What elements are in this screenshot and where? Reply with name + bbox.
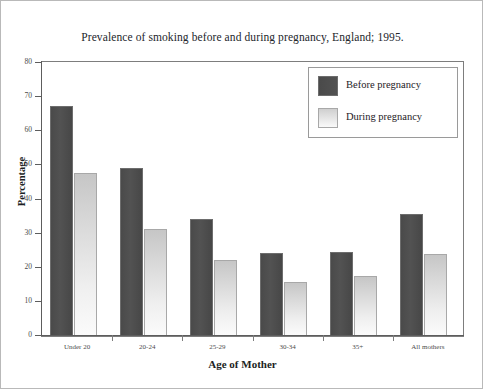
chart-title: Prevalence of smoking before and during … — [1, 31, 483, 43]
legend-label-before: Before pregnancy — [346, 79, 421, 90]
x-axis-tick-label: 30-34 — [253, 343, 323, 351]
bar-before-0 — [50, 106, 73, 335]
x-axis-tick — [253, 335, 254, 341]
y-axis-tick — [35, 301, 42, 302]
y-axis-tick — [35, 335, 42, 336]
bar-before-3 — [260, 253, 283, 335]
x-axis-tick-label: 35+ — [323, 343, 393, 351]
bar-during-2 — [214, 260, 237, 335]
y-axis-tick — [35, 267, 42, 268]
legend-swatch-during-icon — [318, 108, 338, 128]
bar-before-2 — [190, 219, 213, 335]
y-axis-tick — [35, 199, 42, 200]
x-axis-title: Age of Mother — [1, 358, 483, 370]
legend-label-during: During pregnancy — [346, 111, 422, 122]
y-axis-tick-label: 20 — [6, 262, 32, 271]
x-axis-tick — [323, 335, 324, 341]
y-axis-tick-label: 60 — [6, 125, 32, 134]
x-axis-tick — [182, 335, 183, 341]
y-axis-tick — [35, 96, 42, 97]
y-axis-tick — [35, 62, 42, 63]
bar-before-4 — [330, 252, 353, 335]
x-axis-tick — [112, 335, 113, 341]
y-axis-tick — [35, 130, 42, 131]
bar-before-5 — [400, 214, 423, 335]
y-axis-tick — [35, 164, 42, 165]
chart-legend: Before pregnancy During pregnancy — [308, 67, 458, 138]
bar-during-0 — [74, 173, 97, 335]
chart-figure: Prevalence of smoking before and during … — [0, 0, 483, 389]
bar-during-4 — [354, 276, 377, 335]
y-axis-tick-label: 50 — [6, 159, 32, 168]
legend-swatch-before-icon — [318, 76, 338, 96]
x-axis-tick-label: All mothers — [393, 343, 463, 351]
y-axis-tick-label: 80 — [6, 57, 32, 66]
y-axis-tick-label: 40 — [6, 194, 32, 203]
y-axis-title: Percentage — [16, 137, 27, 227]
bar-before-1 — [120, 168, 143, 335]
y-axis-tick — [35, 233, 42, 234]
x-axis-tick-label: Under 20 — [42, 343, 112, 351]
y-axis-tick-label: 0 — [6, 330, 32, 339]
bar-during-5 — [424, 254, 447, 335]
bar-during-1 — [144, 229, 167, 335]
y-axis-tick-label: 70 — [6, 91, 32, 100]
bar-during-3 — [284, 282, 307, 335]
x-axis-tick-label: 25-29 — [182, 343, 252, 351]
x-axis-tick — [393, 335, 394, 341]
x-axis-tick-label: 20-24 — [112, 343, 182, 351]
y-axis-tick-label: 10 — [6, 296, 32, 305]
y-axis-tick-label: 30 — [6, 228, 32, 237]
